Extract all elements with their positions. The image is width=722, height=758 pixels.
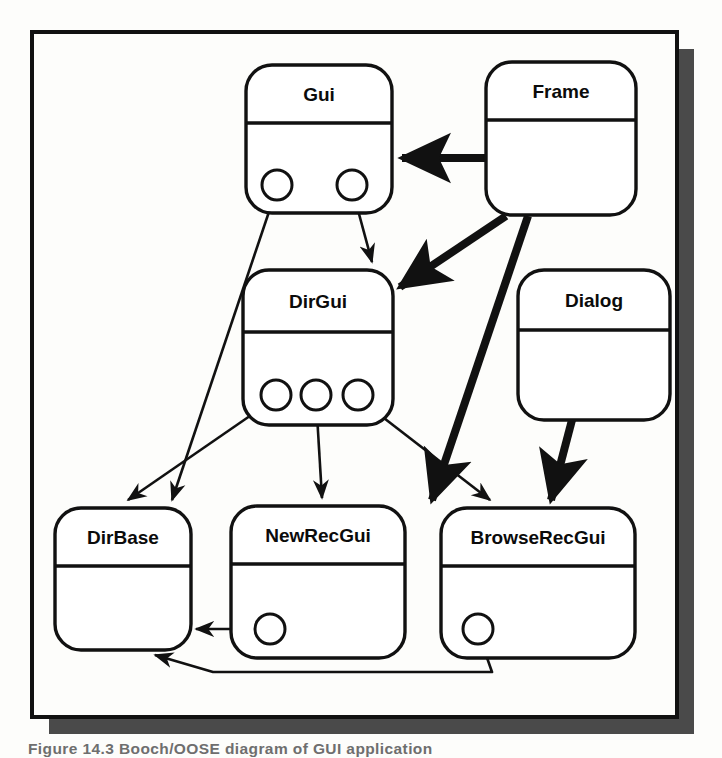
class-port-icon[interactable] (255, 614, 285, 644)
class-name-label: BrowseRecGui (470, 527, 605, 548)
class-box-browserecgui[interactable]: BrowseRecGui (441, 508, 635, 658)
class-name-label: Frame (532, 81, 589, 102)
class-box-dialog[interactable]: Dialog (518, 270, 670, 420)
class-port-icon[interactable] (343, 380, 373, 410)
class-box-newrecgui[interactable]: NewRecGui (231, 506, 405, 658)
class-box-gui[interactable]: Gui (246, 65, 392, 213)
figure-caption: Figure 14.3 Booch/OOSE diagram of GUI ap… (28, 740, 708, 758)
class-name-label: Dialog (565, 290, 623, 311)
class-port-icon[interactable] (261, 380, 291, 410)
class-name-label: NewRecGui (265, 525, 371, 546)
class-box-frame[interactable]: Frame (486, 62, 636, 215)
class-diagram-canvas: GuiFrameDirGuiDialogDirBaseNewRecGuiBrow… (0, 0, 722, 758)
class-port-icon[interactable] (463, 614, 493, 644)
class-box-dirgui[interactable]: DirGui (243, 270, 393, 425)
class-name-label: DirBase (87, 527, 159, 548)
class-name-label: DirGui (289, 291, 347, 312)
class-box-dirbase[interactable]: DirBase (55, 508, 191, 650)
class-port-icon[interactable] (301, 380, 331, 410)
class-port-icon[interactable] (337, 170, 367, 200)
figure-page: GuiFrameDirGuiDialogDirBaseNewRecGuiBrow… (0, 0, 722, 758)
class-name-label: Gui (303, 84, 335, 105)
class-port-icon[interactable] (262, 170, 292, 200)
